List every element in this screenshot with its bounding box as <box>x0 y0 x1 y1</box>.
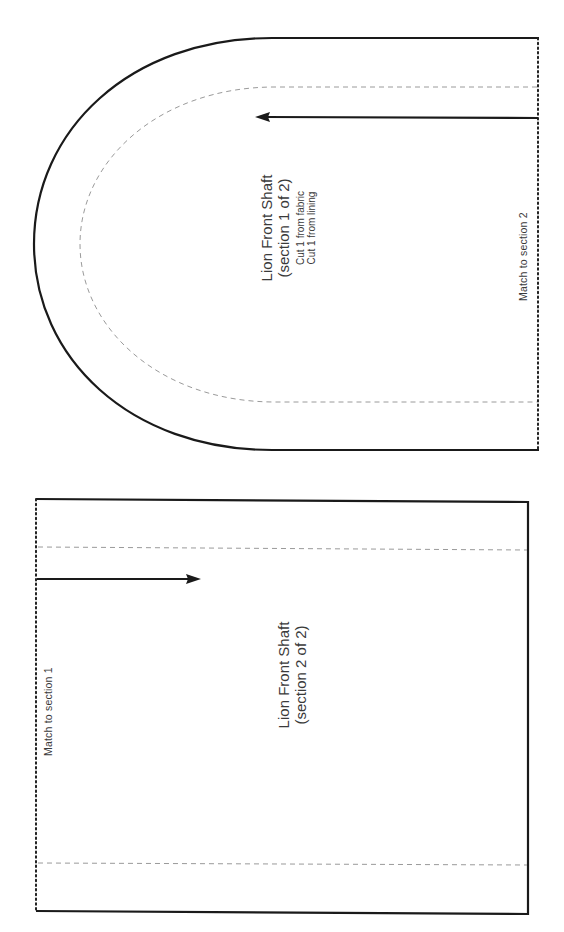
seam-line-bottom-section-2 <box>38 863 527 865</box>
pattern-sheet: Lion Front Shaft (section 1 of 2) Cut 1 … <box>0 0 564 932</box>
section-2-title: Lion Front Shaft <box>276 585 293 765</box>
cut-instruction-fabric: Cut 1 from fabric <box>295 173 306 283</box>
section-1-subtitle: (section 1 of 2) <box>276 138 293 318</box>
section-2-title-block: Lion Front Shaft (section 2 of 2) <box>276 585 309 765</box>
section-1-cut-instructions: Cut 1 from fabric Cut 1 from lining <box>295 173 317 283</box>
seam-line-top-section-2 <box>38 547 527 550</box>
section-1-match-label: Match to section 2 <box>518 212 530 301</box>
section-2-match-label: Match to section 1 <box>43 667 55 756</box>
cut-instruction-lining: Cut 1 from lining <box>306 173 317 283</box>
section-2-subtitle: (section 2 of 2) <box>293 585 310 765</box>
grainline-arrow-icon <box>37 574 201 584</box>
section-1-title-block: Lion Front Shaft (section 1 of 2) <box>259 138 292 318</box>
grainline-arrow-icon <box>255 112 538 122</box>
section-1-title: Lion Front Shaft <box>259 138 276 318</box>
